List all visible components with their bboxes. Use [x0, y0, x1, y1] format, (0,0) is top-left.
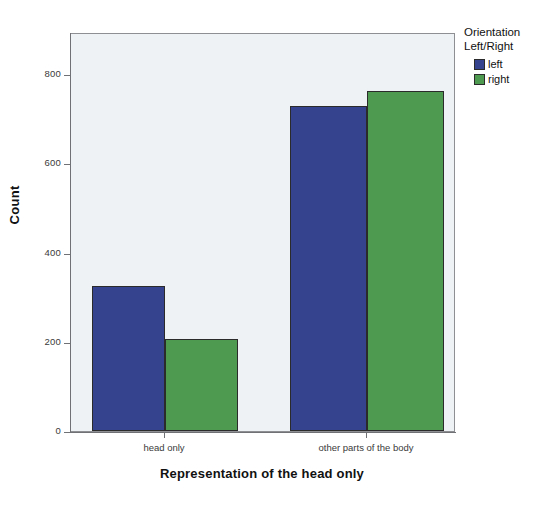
legend-swatch-icon [474, 59, 485, 70]
legend-swatch-icon [474, 74, 485, 85]
legend-item-left: left [474, 58, 556, 70]
y-tick-0: 0 [0, 432, 70, 433]
legend: Orientation Left/Right leftright [464, 26, 556, 88]
legend-title-line-1: Orientation [464, 26, 556, 40]
x-tick-mark [366, 432, 367, 438]
y-tick-label: 400 [45, 247, 61, 258]
legend-item-right: right [474, 73, 556, 85]
y-tick-label: 600 [45, 157, 61, 168]
y-tick-label: 200 [45, 336, 61, 347]
y-tick-mark [64, 432, 70, 433]
bar-right-1 [367, 91, 444, 431]
bars-layer [71, 34, 454, 431]
y-tick-mark [64, 164, 70, 165]
y-tick-mark [64, 343, 70, 344]
plot-area [70, 33, 455, 432]
x-tick-label: head only [143, 442, 184, 453]
y-tick-600: 600 [0, 164, 70, 165]
y-axis-line [70, 33, 71, 433]
y-tick-200: 200 [0, 343, 70, 344]
y-tick-400: 400 [0, 254, 70, 255]
x-tick-mark [164, 432, 165, 438]
y-tick-label: 0 [56, 425, 61, 436]
x-axis-line [70, 432, 456, 433]
y-tick-mark [64, 254, 70, 255]
legend-item-label: right [488, 73, 509, 85]
x-axis-title: Representation of the head only [160, 466, 364, 481]
bar-chart: 0200400600800 head onlyother parts of th… [0, 0, 556, 510]
y-tick-800: 800 [0, 75, 70, 76]
legend-title-line-2: Left/Right [464, 40, 556, 54]
bar-left-0 [92, 286, 165, 431]
legend-title: Orientation Left/Right [464, 26, 556, 53]
legend-item-label: left [488, 58, 503, 70]
y-tick-label: 800 [45, 68, 61, 79]
legend-items: leftright [464, 58, 556, 85]
bar-left-1 [290, 106, 367, 431]
bar-right-0 [165, 339, 238, 431]
x-tick-label: other parts of the body [318, 442, 413, 453]
y-tick-mark [64, 75, 70, 76]
y-axis-title: Count [7, 185, 22, 224]
